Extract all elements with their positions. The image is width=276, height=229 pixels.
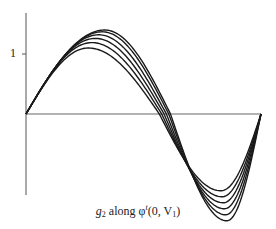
y-tick-label-1: 1 bbox=[10, 46, 16, 61]
caption-middle: along bbox=[106, 204, 139, 218]
chart-caption: g2 along φt(0, V1) bbox=[0, 203, 276, 219]
caption-args-open: (0, V bbox=[148, 204, 172, 218]
chart-plot-area bbox=[0, 0, 276, 229]
caption-args-close: ) bbox=[176, 204, 180, 218]
curve-2-line bbox=[26, 43, 261, 197]
curve-group bbox=[26, 30, 261, 221]
curve-6-line bbox=[26, 30, 261, 221]
curve-1-line bbox=[26, 48, 261, 191]
